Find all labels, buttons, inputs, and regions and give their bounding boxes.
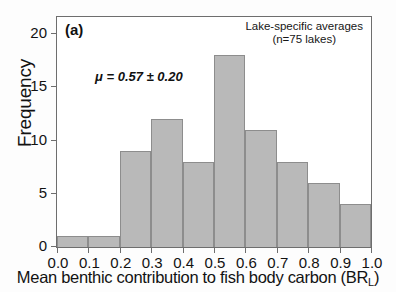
x-axis-tick: 0.5 [214, 247, 215, 253]
x-axis-title-main: Mean benthic contribution to fish body c… [17, 268, 368, 286]
bars-layer [57, 17, 371, 247]
histogram-bar [245, 130, 276, 247]
x-axis-tick: 0.7 [277, 247, 278, 253]
y-axis-title: Frequency [14, 18, 36, 188]
x-axis-tick: 0.9 [340, 247, 341, 253]
plot-area: (a) Lake-specific averages (n=75 lakes) … [56, 16, 372, 248]
x-axis-tick: 0.4 [183, 247, 184, 253]
histogram-bar [308, 183, 339, 247]
histogram-bar [120, 151, 151, 247]
histogram-bar [57, 236, 88, 247]
histogram-bar [214, 55, 245, 247]
y-axis-tick-label: 15 [30, 77, 47, 94]
x-axis-title-suffix: ) [374, 268, 379, 286]
histogram-bar [88, 236, 119, 247]
x-axis-tick: 0.0 [57, 247, 58, 253]
x-axis-tick: 0.3 [151, 247, 152, 253]
histogram-bar [340, 204, 371, 247]
y-axis-tick-label: 5 [39, 184, 47, 201]
histogram-bar [183, 162, 214, 247]
x-axis-tick: 0.2 [120, 247, 121, 253]
x-axis-tick: 0.1 [88, 247, 89, 253]
x-axis-tick: 1.0 [371, 247, 372, 253]
y-axis-tick-label: 20 [30, 24, 47, 41]
histogram-bar [151, 119, 182, 247]
x-axis-title: Mean benthic contribution to fish body c… [0, 268, 396, 288]
x-axis-tick: 0.6 [245, 247, 246, 253]
x-axis-tick: 0.8 [308, 247, 309, 253]
histogram-figure: Frequency (a) Lake-specific averages (n=… [0, 0, 396, 292]
y-axis-tick-label: 0 [39, 237, 47, 254]
y-axis-tick-label: 10 [30, 131, 47, 148]
histogram-bar [277, 162, 308, 247]
